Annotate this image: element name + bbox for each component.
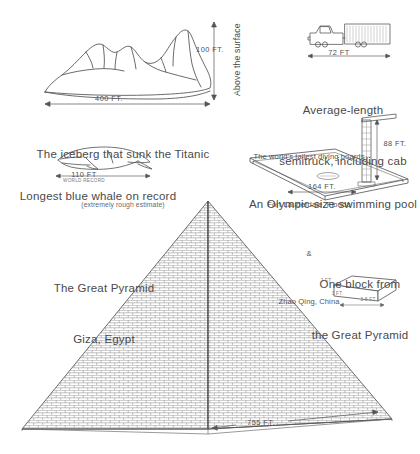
truck-drawing xyxy=(308,24,390,47)
iceberg-caption-text: The iceberg that sunk the Titanic xyxy=(28,148,218,162)
block-length-label: 3.5 FT xyxy=(348,297,388,302)
pyramid-caption-line2: Giza, Egypt xyxy=(34,333,174,347)
infographic-canvas: The iceberg that sunk the Titanic (extre… xyxy=(0,0,420,454)
iceberg-height-label: 100 FT. xyxy=(196,46,224,55)
pyramid-caption: The Great Pyramid Giza, Egypt xyxy=(34,244,174,384)
pool-height-label: 88 FT. xyxy=(382,140,408,149)
block-depth-label: 3 FT xyxy=(326,291,348,296)
whale-length-sublabel: WORLD RECORD xyxy=(55,178,113,183)
iceberg-height-dimension xyxy=(212,22,217,100)
iceberg-width-label: 400 FT. xyxy=(74,95,144,104)
block-caption: One block from the Great Pyramid xyxy=(308,240,412,380)
pyramid-base-label: 755 FT. xyxy=(240,419,282,428)
pool-caption: An Olympic-size swimming pool xyxy=(248,198,418,212)
pyramid-caption-line1: The Great Pyramid xyxy=(34,282,174,296)
whale-caption: Longest blue whale on record xyxy=(8,190,188,204)
diving-board-note-line1: The world's tallest diving boards xyxy=(248,152,370,163)
block-height-label: 2 FT xyxy=(319,278,333,283)
pool-width-label: 164 FT. xyxy=(298,183,346,192)
iceberg-above-surface-label: Above the surface xyxy=(232,12,242,96)
truck-length-label: 72 FT xyxy=(318,49,360,58)
iceberg-drawing xyxy=(45,30,211,99)
block-caption-line2: the Great Pyramid xyxy=(308,329,412,343)
